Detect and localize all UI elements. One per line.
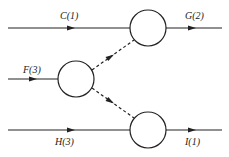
- node-bottom: [130, 112, 166, 148]
- edge-middle-to-bottom: [92, 88, 134, 118]
- edge-g: G(2): [166, 10, 222, 31]
- arrow-icon: [67, 128, 75, 133]
- edge-f: F(3): [8, 64, 58, 82]
- arrow-icon: [67, 26, 75, 31]
- arrow-icon: [188, 26, 196, 31]
- node-middle: [58, 61, 94, 97]
- arrow-icon: [188, 128, 196, 133]
- edge-label-c: C(1): [60, 10, 79, 22]
- edge-h: H(3): [8, 128, 130, 149]
- edge-middle-to-top: [92, 40, 134, 70]
- edge-label-h: H(3): [54, 136, 75, 148]
- edge-i: I(1): [166, 128, 222, 149]
- edge-label-g: G(2): [185, 10, 205, 22]
- arrow-icon: [29, 77, 37, 82]
- edge-label-i: I(1): [184, 136, 201, 148]
- edge-label-f: F(3): [22, 64, 41, 76]
- flow-diagram: C(1) G(2) F(3) H(3) I(1): [0, 0, 229, 157]
- edge-c: C(1): [8, 10, 130, 31]
- node-top: [130, 10, 166, 46]
